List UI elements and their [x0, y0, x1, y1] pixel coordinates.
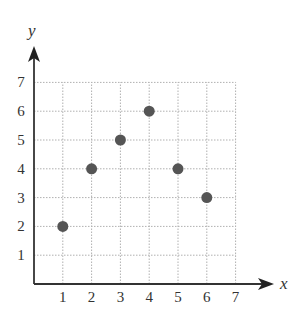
x-tick-label: 4 [145, 289, 153, 305]
y-tick-label: 4 [17, 161, 25, 177]
y-tick-labels: 1234567 [17, 74, 25, 263]
data-point [201, 192, 212, 203]
y-tick-label: 3 [17, 190, 25, 206]
data-point [115, 135, 126, 146]
x-tick-label: 6 [203, 289, 211, 305]
x-tick-label: 3 [117, 289, 125, 305]
data-point [86, 163, 97, 174]
y-tick-label: 2 [17, 218, 25, 234]
x-axis-label: x [279, 274, 288, 293]
x-tick-labels: 1234567 [59, 289, 240, 305]
data-points [57, 106, 212, 232]
axes: x y [26, 21, 288, 293]
x-tick-label: 7 [232, 289, 240, 305]
data-point [57, 221, 68, 232]
y-tick-label: 6 [17, 103, 25, 119]
x-tick-label: 1 [59, 289, 67, 305]
data-point [173, 163, 184, 174]
data-point [144, 106, 155, 117]
y-tick-label: 5 [17, 132, 25, 148]
y-tick-label: 7 [17, 74, 25, 90]
x-tick-label: 2 [88, 289, 96, 305]
x-tick-label: 5 [174, 289, 182, 305]
y-axis-label: y [26, 21, 36, 40]
y-tick-label: 1 [17, 247, 25, 263]
grid [34, 82, 236, 284]
scatter-chart: x y 1234567 1234567 [0, 0, 306, 316]
